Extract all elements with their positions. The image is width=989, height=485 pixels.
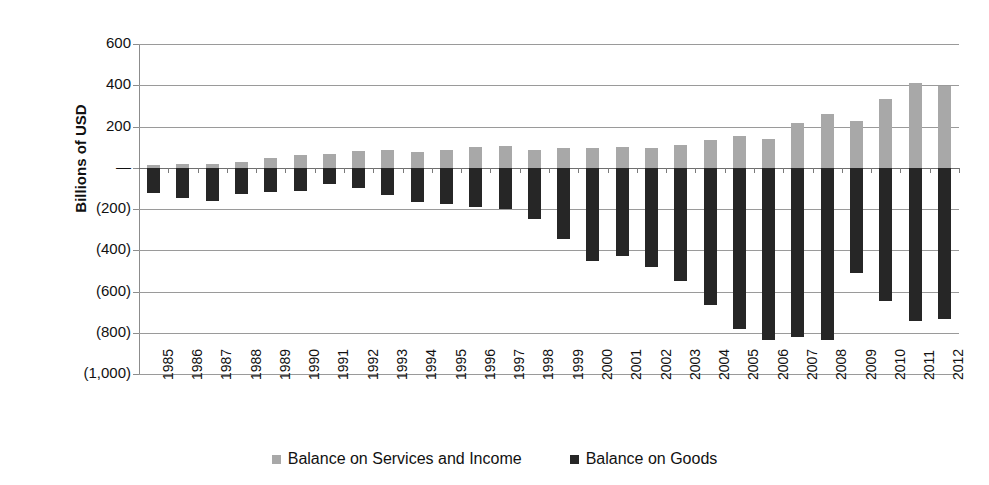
legend-swatch-goods	[570, 455, 579, 464]
minor-tick-1988	[256, 168, 257, 173]
minor-tick-2006	[783, 168, 784, 173]
minor-tick-2009	[871, 168, 872, 173]
x-axis-label-2011: 2011	[921, 350, 937, 380]
minor-tick-2005	[754, 168, 755, 173]
legend-swatch-services	[272, 455, 281, 464]
bar-services-2007	[791, 123, 804, 168]
minor-tick-2008	[842, 168, 843, 173]
minor-tick-2010	[900, 168, 901, 173]
bar-services-2010	[879, 99, 892, 168]
y-tick-label--600: (600)	[31, 282, 131, 299]
bar-services-1989	[264, 158, 277, 167]
bar-goods-1985	[147, 168, 160, 193]
bar-services-1991	[323, 154, 336, 168]
bar-services-2009	[850, 121, 863, 167]
bar-services-1998	[528, 150, 541, 168]
minor-tick-1987	[227, 168, 228, 173]
x-axis-label-1991: 1991	[335, 349, 351, 380]
bar-goods-1993	[381, 168, 394, 195]
bar-services-1994	[411, 152, 424, 168]
bar-services-2003	[674, 145, 687, 167]
bar-services-2000	[586, 148, 599, 168]
y-tick-label-600: 600	[31, 34, 131, 51]
bar-goods-2008	[821, 168, 834, 340]
minor-tick-2000	[608, 168, 609, 173]
minor-tick-2012	[959, 168, 960, 173]
x-axis-label-1989: 1989	[277, 349, 293, 380]
minor-tick-1995	[461, 168, 462, 173]
bar-goods-1996	[469, 168, 482, 207]
bar-goods-2004	[704, 168, 717, 305]
minor-tick-1990	[315, 168, 316, 173]
bar-services-1990	[294, 155, 307, 168]
bar-goods-2009	[850, 168, 863, 273]
x-axis-label-2012: 2012	[950, 349, 966, 380]
y-tick-label-0: —	[31, 158, 131, 175]
minor-tick-1993	[403, 168, 404, 173]
minor-tick-1985	[168, 168, 169, 173]
bar-services-2006	[762, 139, 775, 168]
y-tick-label--800: (800)	[31, 323, 131, 340]
minor-tick-1997	[520, 168, 521, 173]
bar-services-1995	[440, 150, 453, 168]
x-axis-label-2006: 2006	[775, 349, 791, 380]
bar-services-2012	[938, 86, 951, 167]
bar-goods-1991	[323, 168, 336, 184]
x-axis-label-2010: 2010	[892, 349, 908, 380]
gridline-200	[139, 127, 959, 128]
minor-tick-2007	[813, 168, 814, 173]
bar-services-1999	[557, 148, 570, 168]
y-tick-label--1000: (1,000)	[31, 364, 131, 381]
minor-tick-1999	[578, 168, 579, 173]
x-axis-label-1990: 1990	[306, 349, 322, 380]
gridline--200	[139, 209, 959, 210]
minor-tick-2003	[695, 168, 696, 173]
bar-goods-1988	[235, 168, 248, 194]
bar-goods-1994	[411, 168, 424, 202]
x-axis-label-1996: 1996	[482, 349, 498, 380]
legend-item-goods[interactable]: Balance on Goods	[570, 450, 718, 468]
y-tick-label--400: (400)	[31, 240, 131, 257]
y-tick-label-200: 200	[31, 117, 131, 134]
bar-services-2005	[733, 136, 746, 167]
x-axis-label-2002: 2002	[658, 349, 674, 380]
gridline--400	[139, 250, 959, 251]
bar-services-2002	[645, 148, 658, 168]
chart-container: Billions of USD 600400200—(200)(400)(600…	[0, 0, 989, 485]
x-axis-label-2004: 2004	[716, 349, 732, 380]
minor-tick-1986	[198, 168, 199, 173]
x-axis-label-2000: 2000	[599, 349, 615, 380]
legend-label-goods: Balance on Goods	[586, 450, 718, 468]
chart-legend: Balance on Services and IncomeBalance on…	[0, 450, 989, 468]
bar-goods-2003	[674, 168, 687, 281]
bar-goods-1995	[440, 168, 453, 204]
bar-goods-1992	[352, 168, 365, 188]
bar-goods-1987	[206, 168, 219, 201]
gridline--800	[139, 333, 959, 334]
bar-goods-2002	[645, 168, 658, 267]
bar-goods-2012	[938, 168, 951, 320]
x-axis-label-1992: 1992	[365, 349, 381, 380]
x-axis-label-1999: 1999	[570, 349, 586, 380]
x-axis-label-2007: 2007	[804, 349, 820, 380]
bar-goods-1998	[528, 168, 541, 219]
x-axis-label-1985: 1985	[160, 349, 176, 380]
minor-tick-1994	[432, 168, 433, 173]
gridline--600	[139, 292, 959, 293]
x-axis-label-1995: 1995	[453, 349, 469, 380]
bar-goods-1997	[499, 168, 512, 209]
plot-area	[139, 44, 959, 374]
gridline-400	[139, 85, 959, 86]
x-axis-label-2009: 2009	[863, 349, 879, 380]
minor-tick-1998	[549, 168, 550, 173]
bar-goods-1990	[294, 168, 307, 191]
minor-tick-1996	[490, 168, 491, 173]
x-axis-label-2008: 2008	[833, 349, 849, 380]
legend-item-services[interactable]: Balance on Services and Income	[272, 450, 522, 468]
minor-tick-2011	[930, 168, 931, 173]
x-axis-label-2003: 2003	[687, 349, 703, 380]
y-tick-label--200: (200)	[31, 199, 131, 216]
bar-goods-2000	[586, 168, 599, 261]
bar-goods-1989	[264, 168, 277, 192]
x-axis-label-1988: 1988	[248, 349, 264, 380]
